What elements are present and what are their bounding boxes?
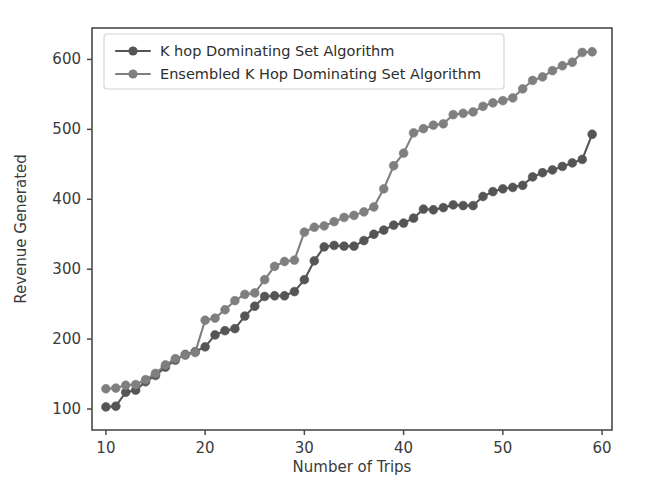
data-point bbox=[310, 256, 319, 265]
y-axis-title: Revenue Generated bbox=[12, 154, 30, 304]
data-point bbox=[459, 109, 468, 118]
x-tick-label-50: 50 bbox=[493, 439, 512, 457]
data-point bbox=[101, 384, 110, 393]
x-tick-label-60: 60 bbox=[593, 439, 612, 457]
data-point bbox=[211, 331, 220, 340]
data-point bbox=[449, 200, 458, 209]
data-point bbox=[300, 275, 309, 284]
data-point bbox=[379, 184, 388, 193]
data-point bbox=[439, 203, 448, 212]
data-point bbox=[588, 130, 597, 139]
data-point bbox=[449, 110, 458, 119]
x-tick-label-10: 10 bbox=[96, 439, 115, 457]
y-tick-label-100: 100 bbox=[52, 400, 81, 418]
data-point bbox=[429, 121, 438, 130]
data-point bbox=[270, 291, 279, 300]
data-point bbox=[340, 213, 349, 222]
data-point bbox=[310, 223, 319, 232]
data-point bbox=[360, 207, 369, 216]
data-point bbox=[201, 342, 210, 351]
data-point bbox=[568, 58, 577, 67]
data-point bbox=[250, 289, 259, 298]
data-point bbox=[409, 128, 418, 137]
revenue-vs-trips-line-chart: 102030405060100200300400500600 Number of… bbox=[0, 0, 655, 486]
legend-label-0: K hop Dominating Set Algorithm bbox=[160, 43, 394, 59]
data-point bbox=[171, 354, 180, 363]
data-point bbox=[439, 119, 448, 128]
legend-marker-icon bbox=[128, 46, 137, 55]
data-point bbox=[389, 221, 398, 230]
data-point bbox=[240, 290, 249, 299]
x-tick-label-40: 40 bbox=[394, 439, 413, 457]
data-point bbox=[389, 161, 398, 170]
y-tick-label-200: 200 bbox=[52, 330, 81, 348]
data-point bbox=[469, 108, 478, 117]
data-point bbox=[121, 381, 130, 390]
y-tick-label-600: 600 bbox=[52, 50, 81, 68]
data-point bbox=[250, 302, 259, 311]
data-point bbox=[479, 192, 488, 201]
data-point bbox=[161, 361, 170, 370]
data-point bbox=[558, 61, 567, 70]
data-point bbox=[111, 384, 120, 393]
legend-entry-1[interactable]: Ensembled K Hop Dominating Set Algorithm bbox=[116, 66, 481, 82]
data-point bbox=[270, 262, 279, 271]
data-point bbox=[399, 219, 408, 228]
data-point bbox=[221, 305, 230, 314]
data-point bbox=[260, 292, 269, 301]
data-point bbox=[141, 375, 150, 384]
data-point bbox=[528, 76, 537, 85]
data-point bbox=[459, 201, 468, 210]
data-point bbox=[518, 181, 527, 190]
legend-marker-icon bbox=[128, 69, 137, 78]
data-point bbox=[340, 242, 349, 251]
data-point bbox=[508, 183, 517, 192]
y-tick-label-400: 400 bbox=[52, 190, 81, 208]
x-axis-title: Number of Trips bbox=[293, 458, 412, 476]
y-tick-label-500: 500 bbox=[52, 120, 81, 138]
chart-legend[interactable]: K hop Dominating Set AlgorithmEnsembled … bbox=[104, 34, 504, 89]
data-point bbox=[111, 402, 120, 411]
data-point bbox=[548, 66, 557, 75]
data-point bbox=[479, 102, 488, 111]
data-point bbox=[399, 149, 408, 158]
data-point bbox=[350, 242, 359, 251]
data-point bbox=[151, 369, 160, 378]
data-point bbox=[578, 155, 587, 164]
data-point bbox=[201, 316, 210, 325]
data-point bbox=[379, 226, 388, 235]
data-point bbox=[131, 380, 140, 389]
data-point bbox=[369, 230, 378, 239]
data-point bbox=[489, 98, 498, 107]
data-point bbox=[320, 221, 329, 230]
data-point bbox=[231, 296, 240, 305]
legend-label-1: Ensembled K Hop Dominating Set Algorithm bbox=[160, 66, 481, 82]
data-point bbox=[320, 242, 329, 251]
data-point bbox=[588, 47, 597, 56]
data-point bbox=[429, 205, 438, 214]
data-point bbox=[568, 159, 577, 168]
y-tick-label-300: 300 bbox=[52, 260, 81, 278]
data-point bbox=[290, 287, 299, 296]
data-point bbox=[419, 205, 428, 214]
data-point bbox=[101, 403, 110, 412]
data-point bbox=[498, 184, 507, 193]
data-point bbox=[231, 324, 240, 333]
data-point bbox=[260, 275, 269, 284]
data-point bbox=[518, 84, 527, 93]
data-point bbox=[469, 201, 478, 210]
data-point bbox=[538, 168, 547, 177]
data-point bbox=[489, 187, 498, 196]
data-point bbox=[330, 241, 339, 250]
data-point bbox=[498, 96, 507, 105]
chart-figure: 102030405060100200300400500600 Number of… bbox=[0, 0, 655, 486]
data-point bbox=[369, 203, 378, 212]
data-point bbox=[280, 291, 289, 300]
data-point bbox=[221, 326, 230, 335]
data-point bbox=[578, 48, 587, 57]
data-point bbox=[240, 312, 249, 321]
data-point bbox=[290, 256, 299, 265]
data-point bbox=[558, 162, 567, 171]
data-point bbox=[419, 124, 428, 133]
data-point bbox=[330, 217, 339, 226]
